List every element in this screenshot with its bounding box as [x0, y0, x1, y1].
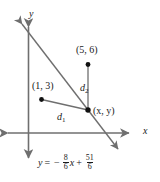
distance-1-label: d1: [57, 112, 66, 122]
intercept-denominator: 6: [87, 162, 93, 171]
intercept-numerator: 51: [85, 154, 95, 162]
slope-denominator: 6: [63, 162, 69, 171]
equation-minus: −: [54, 158, 60, 168]
intercept-fraction: 51 6: [85, 154, 95, 172]
equation-plus: +: [76, 158, 82, 168]
y-axis-label: y: [29, 9, 33, 19]
slope-numerator: 8: [63, 154, 69, 162]
line-equation: y = − 8 6 x + 51 6: [38, 154, 96, 172]
point-x-y-label: (x, y): [93, 106, 115, 116]
x-axis-label: x: [143, 126, 147, 136]
distance-2-subscript: 2: [85, 87, 89, 95]
distance-to-line-figure: y x (1, 3) (5, 6) (x, y) d1 d2 y = − 8 6…: [0, 0, 160, 182]
equation-equals: =: [44, 158, 50, 168]
distance-1-subscript: 1: [62, 116, 66, 124]
point-1-3-dot: [39, 97, 44, 102]
slope-fraction: 8 6: [63, 154, 69, 172]
point-5-6-label: (5, 6): [76, 45, 98, 55]
equation-variable: x: [70, 158, 74, 168]
point-x-y-dot: [85, 107, 90, 112]
point-5-6-dot: [86, 62, 91, 67]
point-1-3-label: (1, 3): [32, 81, 54, 91]
distance-2-label: d2: [80, 83, 89, 93]
equation-lhs: y: [38, 158, 42, 168]
